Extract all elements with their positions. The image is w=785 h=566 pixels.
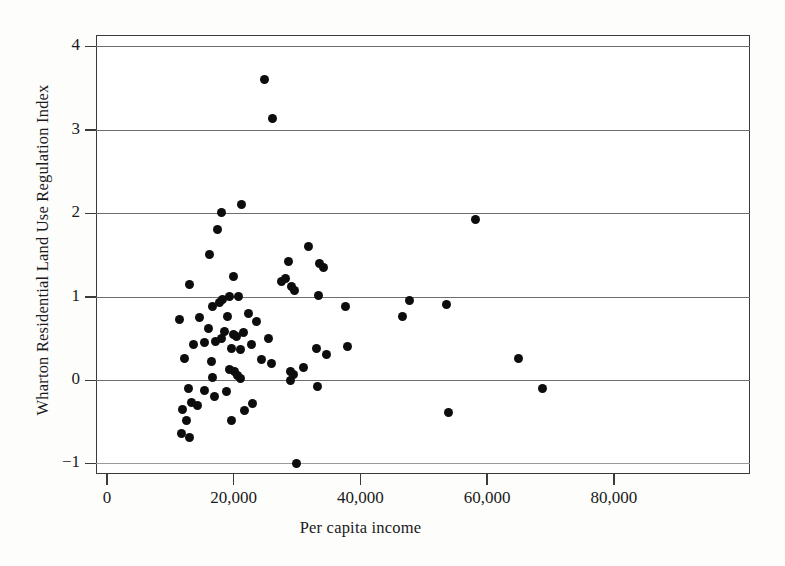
y-axis-title: Wharton Residential Land Use Regulation … <box>28 30 58 470</box>
x-axis-title: Per capita income <box>107 518 614 538</box>
x-tick-mark-0 <box>106 474 108 485</box>
y-tick-mark-3 <box>85 129 96 131</box>
x-tick-mark-40000 <box>360 474 362 485</box>
x-tick-label-80000: 80,000 <box>554 488 674 508</box>
y-tick-mark-1 <box>85 296 96 298</box>
scatter-plot-figure: Wharton Residential Land Use Regulation … <box>0 0 785 566</box>
x-tick-mark-80000 <box>613 474 615 485</box>
x-tick-label-60000: 60,000 <box>427 488 547 508</box>
x-tick-mark-20000 <box>233 474 235 485</box>
x-tick-mark-60000 <box>486 474 488 485</box>
x-tick-label-40000: 40,000 <box>300 488 420 508</box>
plot-frame <box>96 35 750 474</box>
x-tick-label-20000: 20,000 <box>174 488 294 508</box>
y-tick-mark-0 <box>85 380 96 382</box>
y-tick-mark-4 <box>85 46 96 48</box>
y-tick-mark--1 <box>85 463 96 465</box>
y-tick-mark-2 <box>85 213 96 215</box>
x-tick-label-0: 0 <box>47 488 167 508</box>
